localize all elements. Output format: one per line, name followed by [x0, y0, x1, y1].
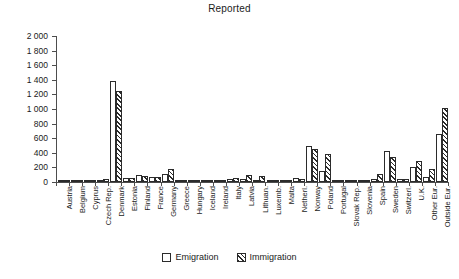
x-axis-labels: AustriaBelgiumCyprusCzech Rep.DenmarkEst… [56, 186, 448, 246]
y-axis-tick-label: 1 800 [27, 46, 48, 55]
x-axis-category-label: Belgium [79, 186, 87, 213]
bar-immigration[interactable] [416, 161, 422, 182]
x-axis-category-label: Slovak Rep. [353, 186, 361, 226]
bar-group [227, 36, 240, 182]
x-axis-category-label: Other Eur. [431, 186, 439, 220]
x-axis-category-label: Norway [314, 186, 322, 211]
bar-immigration[interactable] [168, 169, 174, 182]
x-axis-category-label: Finland [144, 186, 152, 211]
bar-group [384, 36, 397, 182]
bar-group [292, 36, 305, 182]
bar-group [201, 36, 214, 182]
bar-group [344, 36, 357, 182]
bar-group [423, 36, 436, 182]
bar-group [148, 36, 161, 182]
bar-group [162, 36, 175, 182]
bar-group [96, 36, 109, 182]
bar-group [188, 36, 201, 182]
reported-migration-chart: Reported 2 0001 8001 6001 4001 2001 0008… [0, 0, 459, 279]
x-axis-category-label: Luxemb. [275, 186, 283, 215]
bar-immigration[interactable] [116, 91, 122, 182]
bar-series-container [57, 36, 449, 182]
x-axis-category-label: U.K. [418, 186, 426, 201]
bar-immigration[interactable] [377, 174, 383, 182]
bar-group [135, 36, 148, 182]
y-axis-tick-label: 600 [34, 134, 48, 143]
x-axis-category-label: Sweden [392, 186, 400, 213]
legend-item-emigration[interactable]: Emigration [162, 252, 218, 262]
bar-immigration[interactable] [246, 175, 252, 182]
bar-group [70, 36, 83, 182]
y-axis-tick-label: 400 [34, 149, 48, 158]
x-axis-category-label: Spain [379, 186, 387, 205]
y-axis-tick-label: 1 600 [27, 61, 48, 70]
y-axis-tick-label: 1 000 [27, 105, 48, 114]
x-axis-category-label: Estonia [131, 186, 139, 211]
bar-group [436, 36, 449, 182]
x-axis-category-label: Iceland [209, 186, 217, 210]
x-axis-category-label: Lithuan. [262, 186, 270, 213]
bar-immigration[interactable] [442, 108, 448, 182]
page-title: Reported [0, 3, 459, 14]
bar-group [331, 36, 344, 182]
legend-label-immigration: Immigration [250, 252, 297, 262]
legend-swatch-immigration-icon [237, 253, 246, 262]
x-axis-category-label: Italy [235, 186, 243, 200]
bar-group [214, 36, 227, 182]
y-axis-tick-label: 2 000 [27, 32, 48, 41]
y-axis-tick-label: 200 [34, 163, 48, 172]
bar-group [410, 36, 423, 182]
x-axis-category-label: Germany [170, 186, 178, 217]
bar-group [397, 36, 410, 182]
bar-group [305, 36, 318, 182]
bar-immigration[interactable] [429, 169, 435, 182]
y-axis: 2 0001 8001 6001 4001 2001 0008006004002… [0, 30, 56, 188]
x-axis-category-label: Hungary [196, 186, 204, 214]
chart-legend: Emigration Immigration [0, 252, 459, 262]
y-axis-tick-label: 1 400 [27, 76, 48, 85]
x-axis-category-label: Netherl. [301, 186, 309, 212]
bar-immigration[interactable] [325, 154, 331, 182]
x-axis-category-label: Cyprus [92, 186, 100, 210]
x-axis-category-label: Malta [288, 186, 296, 204]
bar-group [175, 36, 188, 182]
bar-group [357, 36, 370, 182]
bar-group [253, 36, 266, 182]
x-axis-category-label: France [157, 186, 165, 209]
y-axis-tick-label: 800 [34, 119, 48, 128]
x-axis-category-label: Slovenia [366, 186, 374, 215]
bar-immigration[interactable] [390, 157, 396, 182]
bar-group [371, 36, 384, 182]
bar-group [240, 36, 253, 182]
x-axis-category-label: Austria [66, 186, 74, 209]
legend-item-immigration[interactable]: Immigration [237, 252, 297, 262]
bar-group [318, 36, 331, 182]
bar-immigration[interactable] [312, 149, 318, 182]
legend-swatch-emigration-icon [162, 253, 171, 262]
bar-group [266, 36, 279, 182]
bar-group [83, 36, 96, 182]
x-axis-category-label: Denmark [118, 186, 126, 216]
x-axis-category-label: Ireland [222, 186, 230, 209]
x-axis-category-label: Switzerl. [405, 186, 413, 214]
x-axis-category-label: Outside Eur. [444, 186, 452, 227]
y-axis-tick-label: 0 [43, 178, 48, 187]
x-axis-category-label: Greece [183, 186, 191, 211]
x-axis-category-label: Poland [327, 186, 335, 209]
bar-group [57, 36, 70, 182]
x-axis-category-label: Latvia [248, 186, 256, 206]
bar-group [109, 36, 122, 182]
bar-group [122, 36, 135, 182]
plot-area [56, 36, 449, 183]
x-axis-category-label: Czech Rep. [105, 186, 113, 225]
bar-group [279, 36, 292, 182]
legend-label-emigration: Emigration [175, 252, 218, 262]
y-axis-tick-label: 1 200 [27, 90, 48, 99]
x-axis-category-label: Portugal [340, 186, 348, 214]
